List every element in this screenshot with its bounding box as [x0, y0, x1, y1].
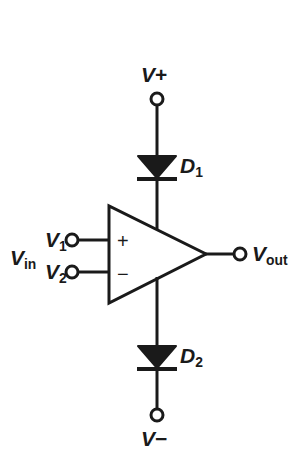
label-v1-subscript: 1 — [59, 238, 67, 254]
v1-terminal[interactable] — [66, 234, 78, 246]
label-v-in: Vin — [10, 247, 36, 268]
label-v2: V2 — [45, 261, 67, 282]
label-v-out: Vout — [252, 243, 288, 264]
label-d1-subscript: 1 — [195, 164, 203, 180]
v-plus-terminal[interactable] — [151, 93, 163, 105]
diode-d1 — [137, 156, 177, 179]
label-v2-subscript: 2 — [59, 270, 67, 286]
v-minus-terminal[interactable] — [151, 409, 163, 421]
label-v-plus: V+ — [141, 64, 167, 85]
diode-d1-anode-triangle — [138, 156, 176, 178]
label-d1-symbol: D — [180, 154, 195, 177]
label-v-plus-sign: + — [155, 63, 167, 86]
label-v-minus-symbol: V — [141, 427, 155, 450]
v2-terminal[interactable] — [66, 266, 78, 278]
opamp-noninverting-input-sign: + — [117, 231, 129, 251]
label-v-plus-symbol: V — [141, 63, 155, 86]
label-v-out-symbol: V — [252, 242, 266, 265]
label-v-in-subscript: in — [24, 256, 36, 272]
label-d2-subscript: 2 — [195, 354, 203, 370]
label-v-minus-sign: − — [155, 427, 167, 450]
label-v2-symbol: V — [45, 260, 59, 283]
diode-d2-anode-triangle — [138, 346, 176, 368]
label-v1: V1 — [45, 229, 67, 250]
opamp-inverting-input-sign: − — [117, 264, 129, 284]
label-d2: D2 — [180, 345, 203, 366]
circuit-diagram: V+ V− D1 D2 Vin V1 V2 Vout + − — [0, 0, 299, 467]
label-d2-symbol: D — [180, 344, 195, 367]
diode-d2 — [137, 346, 177, 369]
label-v-in-symbol: V — [10, 246, 24, 269]
label-v-out-subscript: out — [266, 252, 288, 268]
label-v-minus: V− — [141, 428, 167, 449]
label-v1-symbol: V — [45, 228, 59, 251]
vout-terminal[interactable] — [234, 248, 246, 260]
label-d1: D1 — [180, 155, 203, 176]
